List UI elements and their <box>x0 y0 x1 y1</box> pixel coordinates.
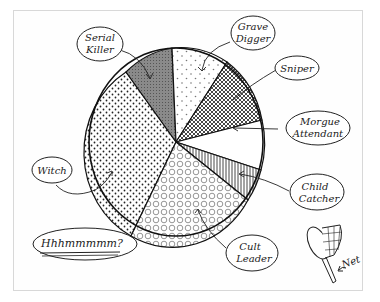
svg-text:Morgue: Morgue <box>299 116 340 127</box>
svg-text:Grave: Grave <box>238 21 268 32</box>
svg-text:Catcher: Catcher <box>299 193 341 204</box>
svg-text:Cult: Cult <box>239 241 261 252</box>
pie-slices <box>84 48 265 248</box>
label-serial-killer: Serial Killer <box>77 27 123 61</box>
label-morgue-attendant: Morgue Attendant <box>286 111 350 145</box>
label-grave-digger: Grave Digger <box>231 16 275 50</box>
svg-text:Witch: Witch <box>37 165 66 176</box>
svg-text:Child: Child <box>302 181 329 192</box>
svg-text:Attendant: Attendant <box>292 128 344 139</box>
pie-chart: Serial Killer Grave Digger Sniper Morgue… <box>0 0 380 302</box>
svg-text:Killer: Killer <box>85 44 115 55</box>
svg-text:Hhhmmmmm?: Hhhmmmmm? <box>40 237 123 250</box>
svg-text:Digger: Digger <box>235 33 272 44</box>
label-sniper: Sniper <box>275 56 319 80</box>
svg-text:Serial: Serial <box>85 32 115 43</box>
label-witch: Witch <box>32 157 72 183</box>
net-icon <box>303 224 346 283</box>
label-cult-leader: Cult Leader <box>226 235 278 271</box>
hmm-annotation: Hhhmmmmm? <box>33 228 137 260</box>
svg-text:Sniper: Sniper <box>280 63 315 74</box>
label-child-catcher: Child Catcher <box>290 174 344 210</box>
svg-text:Leader: Leader <box>235 253 273 264</box>
net-label: Net <box>339 253 362 270</box>
